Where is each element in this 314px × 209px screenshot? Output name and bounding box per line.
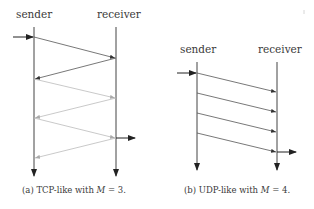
udp-caption-suffix: = 4. [270, 185, 291, 195]
udp-message-4 [197, 133, 276, 152]
tcp-caption-prefix: (a) TCP-like with [22, 185, 97, 195]
udp-caption-prefix: (b) UDP-like with [184, 185, 261, 195]
udp-caption: (b) UDP-like with M = 4. [184, 185, 290, 195]
udp-message-1 [197, 73, 276, 92]
tcp-message-3 [34, 118, 115, 138]
udp-caption-var: M [261, 185, 270, 195]
tcp-ack-2 [35, 98, 116, 118]
tcp-message-1 [34, 37, 115, 58]
tcp-caption-suffix: = 3. [105, 185, 126, 195]
tcp-ack-3 [35, 138, 116, 158]
sequence-diagrams [0, 0, 314, 209]
udp-message-3 [197, 113, 276, 132]
tcp-caption: (a) TCP-like with M = 3. [22, 185, 126, 195]
udp-message-2 [197, 93, 276, 112]
udp-diagram [177, 62, 296, 170]
tcp-diagram [13, 27, 135, 176]
tcp-message-2 [34, 79, 115, 98]
tcp-ack-1 [35, 58, 116, 79]
